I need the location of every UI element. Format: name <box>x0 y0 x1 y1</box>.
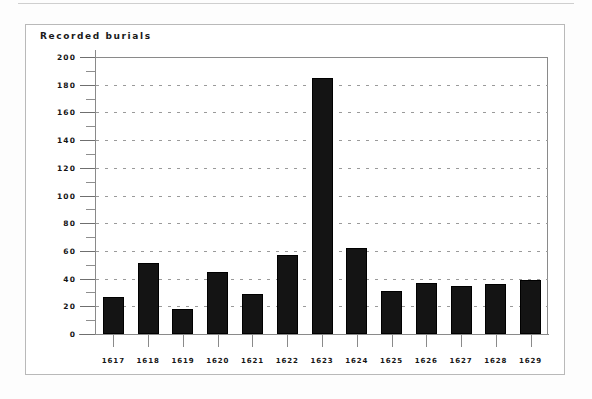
x-tick-1627 <box>461 334 462 347</box>
y-axis-label-140: 140 <box>36 136 76 145</box>
x-axis-label-1624: 1624 <box>345 357 368 365</box>
bar-1625 <box>381 291 402 334</box>
page-top-rule <box>18 3 574 4</box>
x-tick-1623 <box>322 334 323 347</box>
y-tick-major-100 <box>80 196 95 197</box>
x-axis-label-1629: 1629 <box>519 357 542 365</box>
bar-1624 <box>346 248 367 334</box>
y-tick-major-0 <box>80 334 95 335</box>
y-tick-major-40 <box>80 279 95 280</box>
bar-1629 <box>520 280 541 334</box>
y-tick-major-20 <box>80 306 95 307</box>
x-axis-label-1623: 1623 <box>310 357 333 365</box>
x-axis-label-1618: 1618 <box>137 357 160 365</box>
y-axis-label-200: 200 <box>36 53 76 62</box>
y-axis-label-100: 100 <box>36 192 76 201</box>
bar-1617 <box>103 297 124 334</box>
x-tick-1622 <box>287 334 288 347</box>
bar-1623 <box>312 78 333 334</box>
y-axis-label-60: 60 <box>36 247 76 256</box>
x-tick-1624 <box>357 334 358 347</box>
bar-1621 <box>242 294 263 334</box>
y-axis-label-180: 180 <box>36 81 76 90</box>
y-tick-major-200 <box>80 57 95 58</box>
x-axis-label-1625: 1625 <box>380 357 403 365</box>
y-axis-label-120: 120 <box>36 164 76 173</box>
y-tick-minor-90 <box>86 209 95 210</box>
bar-1622 <box>277 255 298 334</box>
x-axis-label-1617: 1617 <box>102 357 125 365</box>
y-tick-major-140 <box>80 140 95 141</box>
bar-1626 <box>416 283 437 334</box>
x-axis-label-1621: 1621 <box>241 357 264 365</box>
bar-1628 <box>485 284 506 334</box>
y-axis-label-40: 40 <box>36 275 76 284</box>
y-tick-major-80 <box>80 223 95 224</box>
x-tick-1619 <box>183 334 184 347</box>
x-tick-1618 <box>148 334 149 347</box>
x-tick-1620 <box>218 334 219 347</box>
y-tick-minor-70 <box>86 237 95 238</box>
x-axis-label-1628: 1628 <box>484 357 507 365</box>
y-tick-major-60 <box>80 251 95 252</box>
x-tick-1617 <box>113 334 114 347</box>
y-tick-major-180 <box>80 85 95 86</box>
bars-group <box>96 57 548 334</box>
y-tick-minor-130 <box>86 154 95 155</box>
y-axis-labels-group: 200180160140120100806040200 <box>32 0 76 399</box>
y-axis-label-0: 0 <box>36 330 76 339</box>
x-tick-1625 <box>392 334 393 347</box>
y-tick-minor-30 <box>86 292 95 293</box>
x-axis-line <box>79 334 549 335</box>
y-tick-major-160 <box>80 112 95 113</box>
bar-1619 <box>172 309 193 334</box>
y-tick-minor-170 <box>86 99 95 100</box>
x-axis-label-1627: 1627 <box>450 357 473 365</box>
x-axis-label-1626: 1626 <box>415 357 438 365</box>
y-axis-label-160: 160 <box>36 108 76 117</box>
x-axis-label-1622: 1622 <box>276 357 299 365</box>
x-axis-label-1620: 1620 <box>206 357 229 365</box>
bar-1627 <box>451 286 472 334</box>
y-tick-minor-10 <box>86 320 95 321</box>
x-tick-1621 <box>252 334 253 347</box>
y-tick-major-120 <box>80 168 95 169</box>
bar-1620 <box>207 272 228 334</box>
page-canvas: Recorded burials 20018016014012010080604… <box>0 0 592 399</box>
y-tick-minor-110 <box>86 182 95 183</box>
x-tick-1628 <box>496 334 497 347</box>
x-tick-1626 <box>426 334 427 347</box>
y-axis-label-80: 80 <box>36 219 76 228</box>
y-axis-label-20: 20 <box>36 302 76 311</box>
y-tick-minor-50 <box>86 265 95 266</box>
x-tick-1629 <box>531 334 532 347</box>
y-tick-minor-150 <box>86 126 95 127</box>
y-tick-minor-190 <box>86 71 95 72</box>
x-axis-label-1619: 1619 <box>171 357 194 365</box>
bar-1618 <box>138 263 159 334</box>
